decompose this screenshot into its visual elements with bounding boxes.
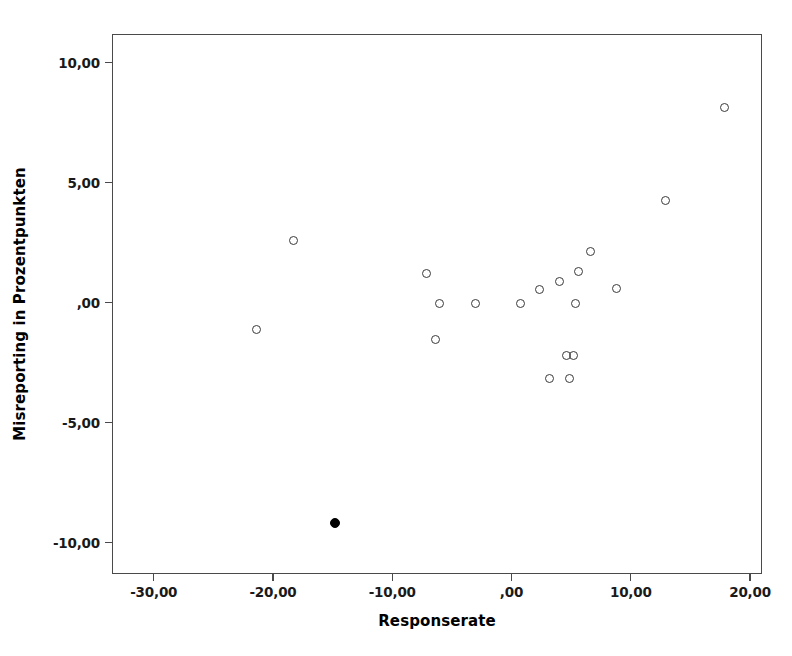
x-axis-title: Responserate <box>112 612 762 630</box>
x-tick-label: -20,00 <box>249 584 296 600</box>
data-point <box>252 325 261 334</box>
y-tick-label: -5,00 <box>40 415 100 431</box>
x-tick-mark <box>272 574 273 581</box>
y-tick-label: ,00 <box>40 295 100 311</box>
data-point <box>555 277 564 286</box>
y-tick-mark <box>105 302 112 303</box>
x-tick-mark <box>392 574 393 581</box>
data-point <box>545 374 554 383</box>
y-tick-label: 5,00 <box>40 175 100 191</box>
data-point <box>612 284 621 293</box>
x-tick-mark <box>153 574 154 581</box>
x-tick-label: ,00 <box>500 584 523 600</box>
data-point <box>720 103 729 112</box>
scatter-plot-figure: Misreporting in Prozentpunkten -30,00-20… <box>0 0 792 656</box>
data-point <box>565 374 574 383</box>
y-tick-mark <box>105 542 112 543</box>
x-tick-mark <box>749 574 750 581</box>
x-tick-label: -30,00 <box>130 584 177 600</box>
x-tick-mark <box>511 574 512 581</box>
x-tick-label: 10,00 <box>610 584 652 600</box>
y-tick-mark <box>105 422 112 423</box>
y-tick-label: -10,00 <box>40 535 100 551</box>
data-point <box>535 285 544 294</box>
y-axis-title-wrap: Misreporting in Prozentpunkten <box>0 34 40 574</box>
x-tick-label: -10,00 <box>369 584 416 600</box>
data-point <box>571 299 580 308</box>
data-points-layer <box>113 35 761 573</box>
data-point <box>516 299 525 308</box>
data-point <box>435 299 444 308</box>
y-tick-label: 10,00 <box>40 55 100 71</box>
y-tick-mark <box>105 62 112 63</box>
data-point <box>586 247 595 256</box>
data-point <box>471 299 480 308</box>
data-point <box>422 269 431 278</box>
y-axis-title: Misreporting in Prozentpunkten <box>11 167 29 441</box>
data-point <box>431 335 440 344</box>
plot-area <box>112 34 762 574</box>
x-tick-label: 20,00 <box>729 584 771 600</box>
data-point <box>661 196 670 205</box>
y-tick-mark <box>105 182 112 183</box>
data-point-highlighted <box>330 518 340 528</box>
x-tick-mark <box>630 574 631 581</box>
data-point <box>569 351 578 360</box>
data-point <box>574 267 583 276</box>
data-point <box>289 236 298 245</box>
